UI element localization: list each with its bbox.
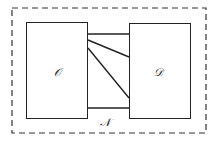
connection-lines [88,34,129,108]
outer-region-label: 𝒩 [100,116,114,129]
diagram-canvas: 𝒪 𝒟 𝒩 [0,0,217,144]
connection-line [88,48,129,98]
